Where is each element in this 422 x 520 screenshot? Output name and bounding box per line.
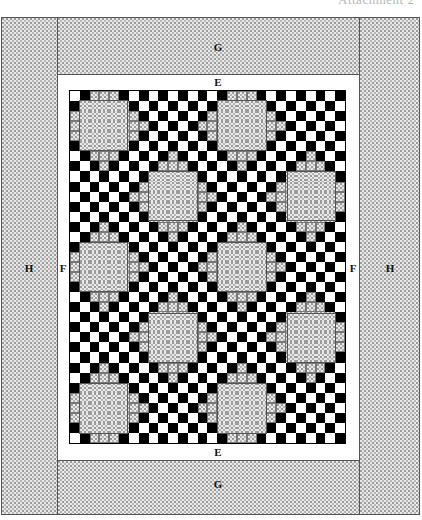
checker-cell (247, 322, 257, 332)
checker-cell (70, 192, 80, 202)
ring-cell (237, 373, 247, 383)
ring-cell (296, 363, 306, 373)
checker-cell (296, 131, 306, 141)
ring-cell (129, 403, 139, 413)
checker-cell (178, 292, 188, 302)
checker-cell (227, 161, 237, 171)
checker-cell (296, 393, 306, 403)
checker-cell (335, 393, 345, 403)
checker-cell (90, 302, 100, 312)
checker-cell (335, 312, 345, 322)
checker-cell (247, 192, 257, 202)
checker-cell (188, 242, 198, 252)
ring-cell (276, 322, 286, 332)
checker-cell (90, 312, 100, 322)
ring-cell (296, 302, 306, 312)
checker-cell (198, 161, 208, 171)
checker-cell (335, 302, 345, 312)
checker-cell (149, 101, 159, 111)
checker-cell (188, 111, 198, 121)
checker-cell (99, 342, 109, 352)
checker-cell (168, 242, 178, 252)
checker-cell (90, 212, 100, 222)
checker-cell (247, 312, 257, 322)
ring-cell (198, 322, 208, 332)
checker-cell (306, 111, 316, 121)
checker-cell (335, 161, 345, 171)
checker-cell (168, 383, 178, 393)
checker-cell (178, 232, 188, 242)
ring-cell (316, 363, 326, 373)
ring-cell (90, 151, 100, 161)
checker-cell (188, 363, 198, 373)
checker-cell (188, 222, 198, 232)
checker-cell (296, 242, 306, 252)
checker-cell (296, 423, 306, 433)
checker-cell (90, 222, 100, 232)
checker-cell (276, 373, 286, 383)
checker-cell (70, 212, 80, 222)
checker-cell (296, 151, 306, 161)
checker-cell (158, 262, 168, 272)
ring-cell (276, 262, 286, 272)
label-g-bottom: G (214, 478, 223, 490)
checker-cell (266, 222, 276, 232)
checker-cell (198, 232, 208, 242)
checker-cell (149, 232, 159, 242)
label-e-bottom: E (214, 446, 221, 458)
checker-cell (178, 141, 188, 151)
checker-cell (70, 171, 80, 181)
checker-cell (188, 292, 198, 302)
checker-cell (335, 403, 345, 413)
checker-cell (119, 322, 129, 332)
checker-cell (296, 111, 306, 121)
checker-cell (119, 433, 129, 443)
ring-cell (99, 151, 109, 161)
checker-cell (80, 373, 90, 383)
ring-cell (139, 262, 149, 272)
ring-cell (237, 363, 247, 373)
ring-cell (129, 332, 139, 342)
checker-cell (207, 91, 217, 101)
checker-cell (158, 101, 168, 111)
checker-cell (257, 171, 267, 181)
checker-cell (325, 151, 335, 161)
checker-cell (109, 161, 119, 171)
checker-cell (99, 202, 109, 212)
checker-cell (276, 383, 286, 393)
checker-cell (266, 373, 276, 383)
checker-cell (129, 242, 139, 252)
checker-cell (119, 292, 129, 302)
ring-cell (168, 151, 178, 161)
ring-cell (168, 232, 178, 242)
ring-cell (306, 151, 316, 161)
label-e-top: E (214, 76, 221, 88)
checker-cell (207, 161, 217, 171)
checker-cell (149, 272, 159, 282)
checker-cell (178, 151, 188, 161)
checker-cell (99, 322, 109, 332)
large-block (79, 242, 128, 293)
checker-cell (266, 312, 276, 322)
checker-cell (139, 383, 149, 393)
checker-cell (316, 121, 326, 131)
checker-cell (335, 222, 345, 232)
checker-cell (286, 151, 296, 161)
checker-cell (217, 182, 227, 192)
checker-cell (335, 232, 345, 242)
ring-cell (227, 232, 237, 242)
checker-cell (70, 332, 80, 342)
ring-cell (99, 363, 109, 373)
checker-cell (335, 383, 345, 393)
checker-cell (80, 292, 90, 302)
large-block (148, 171, 197, 222)
checker-cell (266, 363, 276, 373)
checker-cell (276, 413, 286, 423)
checker-cell (257, 202, 267, 212)
checker-cell (286, 242, 296, 252)
ring-cell (237, 222, 247, 232)
ring-cell (335, 322, 345, 332)
checker-cell (286, 111, 296, 121)
checker-cell (217, 332, 227, 342)
checker-cell (188, 413, 198, 423)
